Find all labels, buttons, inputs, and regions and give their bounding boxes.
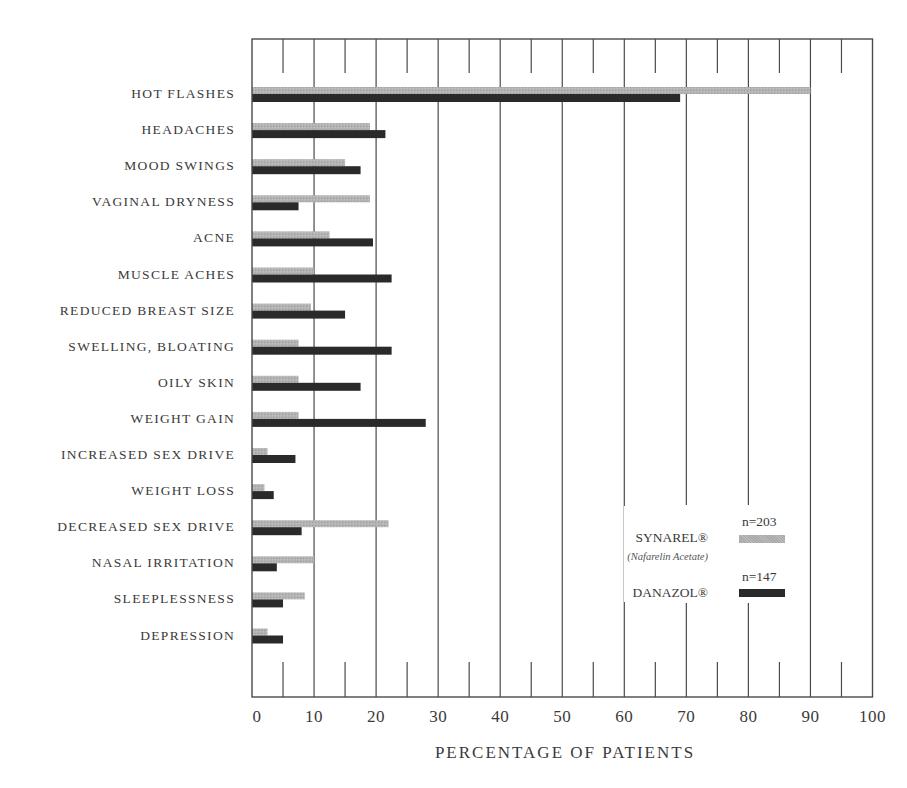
legend: n=203 SYNAREL® (Nafarelin Acetate) n=147… [624,506,788,602]
x-tick-label: 20 [356,707,396,727]
x-tick-label: 80 [728,707,768,727]
x-tick-label: 50 [542,707,582,727]
bar-synarel [252,520,389,527]
bar-danazol [252,275,392,283]
bar-danazol [252,166,361,174]
category-label: WEIGHT GAIN [0,411,235,427]
legend-synarel-n: n=203 [742,514,777,530]
bar-danazol [252,563,277,571]
category-label: MOOD SWINGS [0,158,235,174]
x-tick-label: 0 [237,707,277,727]
category-label: WEIGHT LOSS [0,483,235,499]
bar-synarel [252,304,311,311]
x-tick-label: 40 [480,707,520,727]
category-label: VAGINAL DRYNESS [0,194,235,210]
bar-danazol [252,383,361,391]
legend-synarel-swatch [739,535,785,543]
bar-danazol [252,419,426,427]
bar-danazol [252,636,283,644]
bar-synarel [252,195,370,202]
plot-area [0,0,907,788]
category-label: SLEEPLESSNESS [0,591,235,607]
bar-synarel [252,556,314,563]
bar-synarel [252,484,264,491]
bar-synarel [252,268,314,275]
bar-danazol [252,527,302,535]
category-label: HOT FLASHES [0,86,235,102]
category-label: SWELLING, BLOATING [0,339,235,355]
bar-danazol [252,347,392,355]
legend-synarel-subtitle: (Nafarelin Acetate) [627,551,708,562]
legend-danazol-n: n=147 [742,569,777,585]
category-label: REDUCED BREAST SIZE [0,303,235,319]
legend-synarel-name: SYNAREL® [635,530,708,546]
legend-danazol-swatch [739,589,785,597]
category-label: INCREASED SEX DRIVE [0,447,235,463]
bar-synarel [252,592,305,599]
bar-danazol [252,455,295,463]
bar-danazol [252,238,373,246]
bar-synarel [252,231,330,238]
bar-synarel [252,629,268,636]
bar-danazol [252,130,385,138]
category-label: HEADACHES [0,122,235,138]
bar-danazol [252,311,345,319]
bar-danazol [252,94,680,102]
bar-synarel [252,376,299,383]
x-tick-label: 30 [418,707,458,727]
category-label: MUSCLE ACHES [0,267,235,283]
bar-danazol [252,202,299,210]
bar-synarel [252,412,299,419]
category-label: NASAL IRRITATION [0,555,235,571]
x-tick-label: 60 [604,707,644,727]
bar-synarel [252,159,345,166]
bar-synarel [252,87,810,94]
bar-danazol [252,491,274,499]
x-tick-label: 100 [853,707,893,727]
legend-danazol-name: DANAZOL® [633,585,709,601]
x-tick-label: 70 [666,707,706,727]
bar-chart: HOT FLASHESHEADACHESMOOD SWINGSVAGINAL D… [0,0,907,788]
category-label: OILY SKIN [0,375,235,391]
category-label: ACNE [0,230,235,246]
category-label: DEPRESSION [0,628,235,644]
bar-danazol [252,599,283,607]
x-tick-label: 90 [790,707,830,727]
x-axis-title: PERCENTAGE OF PATIENTS [360,743,770,763]
x-tick-label: 10 [294,707,334,727]
bar-synarel [252,123,370,130]
category-label: DECREASED SEX DRIVE [0,519,235,535]
bar-synarel [252,340,299,347]
bar-synarel [252,448,268,455]
